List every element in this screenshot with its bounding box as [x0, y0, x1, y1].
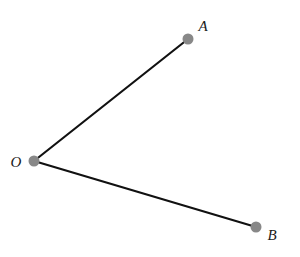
point-A	[183, 34, 194, 45]
point-O	[29, 156, 40, 167]
label-O: O	[11, 154, 22, 170]
angle-diagram: O A B	[0, 0, 300, 257]
label-A: A	[197, 18, 208, 34]
segment-OB	[34, 161, 256, 227]
point-B	[251, 222, 262, 233]
label-B: B	[267, 227, 276, 243]
segment-OA	[34, 39, 188, 161]
